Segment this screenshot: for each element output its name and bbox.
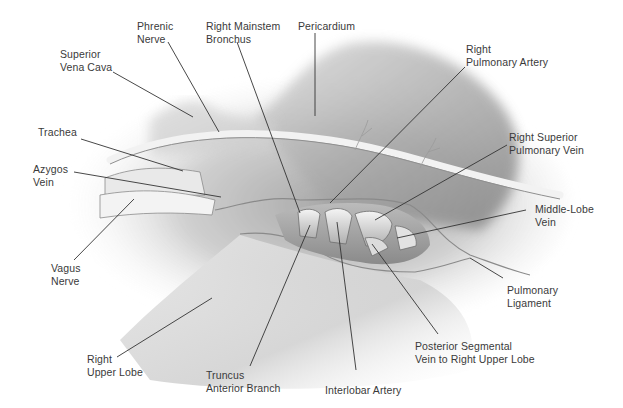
label-line: Vena Cava (60, 61, 112, 74)
label-line: Bronchus (206, 33, 280, 46)
label-line: Upper Lobe (87, 366, 143, 379)
label-line: Interlobar Artery (325, 384, 401, 397)
label-line: Nerve (137, 33, 173, 46)
label-line: Vein to Right Upper Lobe (415, 353, 535, 366)
label-posterior-segmental-vein: Posterior SegmentalVein to Right Upper L… (415, 340, 535, 365)
label-line: Phrenic (137, 20, 173, 33)
leader-posterior-segmental-vein (372, 244, 438, 334)
label-line: Superior (60, 48, 112, 61)
leader-right-mainstem-bronchus (237, 42, 300, 213)
label-superior-vena-cava: SuperiorVena Cava (60, 48, 112, 73)
label-line: Vein (535, 216, 594, 229)
leader-trachea (81, 139, 183, 171)
leader-right-upper-lobe (117, 298, 212, 357)
leader-superior-vena-cava (113, 72, 193, 117)
label-right-upper-lobe: RightUpper Lobe (87, 353, 143, 378)
label-interlobar-artery: Interlobar Artery (325, 384, 401, 397)
label-line: Truncus (206, 369, 280, 382)
label-right-superior-pulmonary-vein: Right SuperiorPulmonary Vein (509, 131, 584, 156)
leader-azygos-vein (74, 172, 221, 197)
leader-truncus-anterior-branch (250, 225, 310, 366)
leader-vagus-nerve (74, 199, 134, 260)
label-line: Right Mainstem (206, 20, 280, 33)
leader-right-pulmonary-artery (330, 67, 465, 203)
label-truncus-anterior-branch: TruncusAnterior Branch (206, 369, 280, 394)
label-line: Middle-Lobe (535, 203, 594, 216)
label-line: Pulmonary Artery (466, 56, 548, 69)
label-pericardium: Pericardium (298, 20, 355, 33)
label-line: Pericardium (298, 20, 355, 33)
label-line: Vagus (51, 262, 81, 275)
label-line: Azygos (33, 163, 68, 176)
label-trachea: Trachea (38, 126, 77, 139)
label-line: Posterior Segmental (415, 340, 535, 353)
leader-middle-lobe-vein (397, 210, 526, 238)
leader-right-superior-pulmonary-vein (375, 145, 507, 220)
label-line: Pulmonary (507, 284, 558, 297)
label-line: Right (87, 353, 143, 366)
label-right-mainstem-bronchus: Right MainstemBronchus (206, 20, 280, 45)
label-middle-lobe-vein: Middle-LobeVein (535, 203, 594, 228)
leader-interlobar-artery (337, 222, 356, 370)
anatomy-figure: PhrenicNerveRight MainstemBronchusPerica… (0, 0, 623, 408)
label-phrenic-nerve: PhrenicNerve (137, 20, 173, 45)
label-line: Nerve (51, 275, 81, 288)
label-azygos-vein: AzygosVein (33, 163, 68, 188)
label-line: Anterior Branch (206, 382, 280, 395)
label-pulmonary-ligament: PulmonaryLigament (507, 284, 558, 309)
label-line: Right Superior (509, 131, 584, 144)
leader-pulmonary-ligament (470, 258, 503, 278)
label-line: Right (466, 43, 548, 56)
label-vagus-nerve: VagusNerve (51, 262, 81, 287)
label-right-pulmonary-artery: RightPulmonary Artery (466, 43, 548, 68)
label-line: Pulmonary Vein (509, 144, 584, 157)
label-line: Vein (33, 176, 68, 189)
label-line: Ligament (507, 297, 558, 310)
leader-phrenic-nerve (168, 42, 219, 132)
label-line: Trachea (38, 126, 77, 139)
